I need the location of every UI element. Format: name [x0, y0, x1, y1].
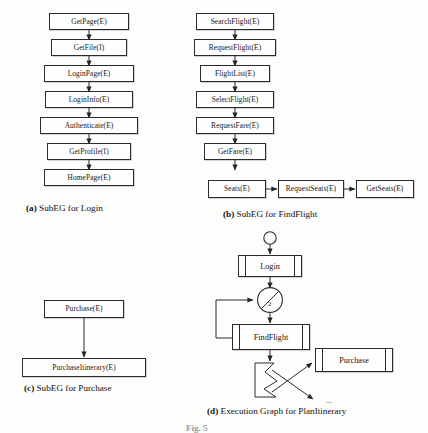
node-getprofile[interactable]: GetProfile(I) — [47, 143, 131, 160]
caption-panel-b: (b) SubEG for FindFlight — [223, 209, 317, 219]
subactivity-left-bar — [233, 325, 240, 349]
node-purchaseitinerary[interactable]: PurchaseItinerary(E) — [22, 358, 146, 377]
caption-panel-c: (c) SubEG for Purchase — [24, 383, 112, 393]
node-loginpage[interactable]: LoginPage(E) — [44, 65, 134, 82]
subactivity-login-label: Login — [246, 256, 294, 276]
node-getseats[interactable]: GetSeats(E) — [356, 180, 414, 198]
caption-panel-a: (a) SubEG for Login — [26, 203, 103, 213]
caption-a-tag: (a) — [26, 203, 37, 213]
caption-b-tag: (b) — [223, 209, 234, 219]
subactivity-findflight-label: FindFlight — [240, 325, 302, 349]
caption-c-text: SubEG for Purchase — [37, 383, 112, 393]
caption-d-tag: (d) — [207, 406, 218, 416]
node-flightlist[interactable]: FlightList(E) — [200, 65, 270, 82]
node-selectflight[interactable]: SelectFlight(E) — [196, 91, 274, 108]
branch-ellipsis: ... — [326, 396, 332, 405]
caption-a-text: SubEG for Login — [39, 203, 103, 213]
caption-c-tag: (c) — [24, 383, 34, 393]
subactivity-right-bar — [385, 349, 392, 371]
merge-node-count: 2 — [268, 300, 272, 308]
node-getfare[interactable]: GetFare(E) — [204, 143, 266, 160]
subactivity-right-bar — [294, 256, 301, 276]
node-authenticate[interactable]: Authenticate(E) — [40, 117, 138, 134]
subactivity-purchase-label: Purchase — [323, 349, 385, 371]
caption-panel-d: (d) Execution Graph for PlanItinerary — [207, 406, 346, 416]
node-getfile[interactable]: GetFile(I) — [51, 39, 127, 56]
node-purchase[interactable]: Purchase(E) — [44, 300, 124, 318]
node-getpage[interactable]: GetPage(E) — [49, 13, 129, 30]
figure-number: Fig. 5 — [186, 423, 208, 433]
node-requestflight[interactable]: RequestFlight(E) — [194, 39, 276, 56]
subactivity-right-bar — [302, 325, 309, 349]
caption-b-text: SubEG for FindFlight — [237, 209, 318, 219]
node-requestfare[interactable]: RequestFare(E) — [196, 117, 274, 134]
subactivity-login[interactable]: Login — [238, 255, 302, 277]
node-searchflight[interactable]: SearchFlight(E) — [196, 13, 274, 30]
subactivity-left-bar — [239, 256, 246, 276]
node-homepage[interactable]: HomePage(E) — [44, 169, 134, 186]
subactivity-left-bar — [316, 349, 323, 371]
subactivity-purchase[interactable]: Purchase — [315, 348, 393, 372]
node-seats[interactable]: Seats(E) — [208, 180, 266, 198]
subactivity-findflight[interactable]: FindFlight — [232, 324, 310, 350]
node-logininfo[interactable]: LoginInfo(E) — [45, 91, 133, 108]
caption-d-text: Execution Graph for PlanItinerary — [221, 406, 347, 416]
node-requestseats[interactable]: RequestSeats(E) — [278, 180, 344, 198]
